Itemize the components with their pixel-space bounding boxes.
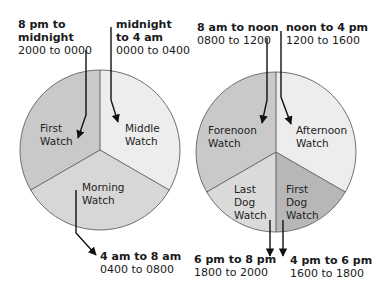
time-line: midnight (18, 31, 92, 44)
slice-label-line: Watch (40, 135, 73, 148)
slice-label-forenoon-watch: Forenoon Watch (208, 124, 257, 150)
slice-label-line: Watch (234, 209, 267, 222)
slice-label-morning-watch: Morning Watch (82, 181, 125, 207)
label-last-dog-watch-time: 6 pm to 8 pm 1800 to 2000 (194, 253, 276, 279)
hours-text: 1200 to 1600 (286, 34, 368, 47)
hours-text: 0000 to 0400 (116, 44, 190, 57)
time-line: 8 am to noon (197, 21, 279, 34)
time-line: noon to 4 pm (286, 21, 368, 34)
hours-text: 1600 to 1800 (290, 267, 372, 280)
label-middle-watch-time: midnight to 4 am 0000 to 0400 (116, 18, 190, 57)
slice-label-line: First (40, 122, 73, 135)
slice-label-last-dog-watch: Last Dog Watch (234, 183, 267, 222)
time-line: midnight (116, 18, 190, 31)
label-first-dog-watch-time: 4 pm to 6 pm 1600 to 1800 (290, 254, 372, 280)
slice-label-first-watch: First Watch (40, 122, 73, 148)
hours-text: 0400 to 0800 (100, 263, 181, 276)
slice-label-line: Watch (296, 137, 347, 150)
slice-label-line: Forenoon (208, 124, 257, 137)
slice-label-middle-watch: Middle Watch (125, 122, 160, 148)
slice-label-line: Morning (82, 181, 125, 194)
label-morning-watch-time: 4 am to 8 am 0400 to 0800 (100, 250, 181, 276)
hours-text: 2000 to 0000 (18, 44, 92, 57)
slice-label-line: Dog (286, 196, 319, 209)
slice-label-line: Watch (208, 137, 257, 150)
slice-label-line: Last (234, 183, 267, 196)
label-forenoon-watch-time: 8 am to noon 0800 to 1200 (197, 21, 279, 47)
slice-label-line: Watch (286, 209, 319, 222)
time-line: 6 pm to 8 pm (194, 253, 276, 266)
time-line: 8 pm to (18, 18, 92, 31)
hours-text: 0800 to 1200 (197, 34, 279, 47)
slice-label-line: Afternoon (296, 124, 347, 137)
slice-label-line: First (286, 183, 319, 196)
slice-label-first-dog-watch: First Dog Watch (286, 183, 319, 222)
slice-label-line: Watch (82, 194, 125, 207)
slice-label-line: Watch (125, 135, 160, 148)
hours-text: 1800 to 2000 (194, 266, 276, 279)
label-afternoon-watch-time: noon to 4 pm 1200 to 1600 (286, 21, 368, 47)
time-line: 4 am to 8 am (100, 250, 181, 263)
time-line: 4 pm to 6 pm (290, 254, 372, 267)
slice-label-line: Middle (125, 122, 160, 135)
slice-label-line: Dog (234, 196, 267, 209)
label-first-watch-time: 8 pm to midnight 2000 to 0000 (18, 18, 92, 57)
time-line: to 4 am (116, 31, 190, 44)
slice-label-afternoon-watch: Afternoon Watch (296, 124, 347, 150)
